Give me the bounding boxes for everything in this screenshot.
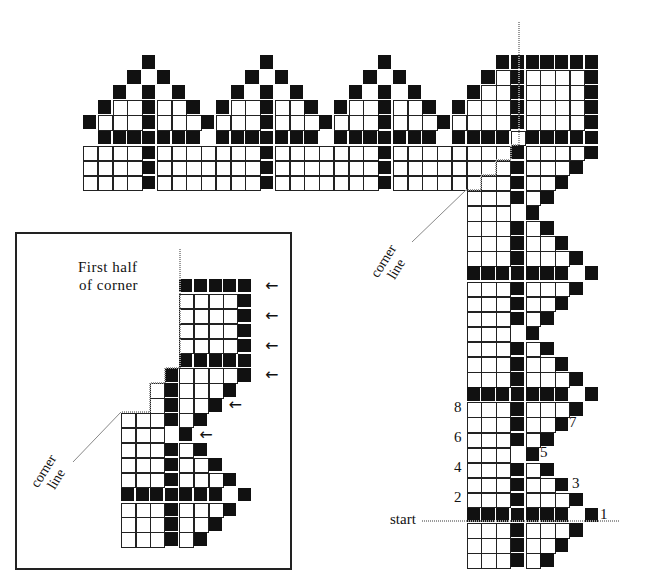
left-arrow-icon: ←: [265, 308, 278, 324]
row-number: 1: [600, 506, 608, 523]
left-arrow-icon: ←: [265, 278, 278, 294]
row-number: 3: [572, 475, 580, 492]
left-arrow-icon: ←: [265, 338, 278, 354]
row-number: 7: [569, 414, 577, 431]
row-number: 8: [454, 399, 462, 416]
row-number: 4: [454, 459, 462, 476]
row-number: 2: [454, 489, 462, 506]
inset-title: First half of corner: [78, 258, 138, 294]
row-number: 5: [540, 444, 548, 461]
left-arrow-icon: ←: [199, 427, 212, 443]
inset-corner-stepped-line: [121, 353, 180, 412]
inset-title-line1: First half: [78, 258, 138, 276]
row-number: 6: [454, 429, 462, 446]
start-label: start: [390, 511, 416, 528]
main-corner-stepped-line: [466, 130, 519, 190]
left-arrow-icon: ←: [229, 397, 242, 413]
left-arrow-icon: ←: [265, 367, 278, 383]
inset-title-line2: of corner: [78, 276, 138, 294]
main-corner-leader-line: [412, 190, 466, 242]
inset-corner-leader-line: [73, 412, 121, 462]
